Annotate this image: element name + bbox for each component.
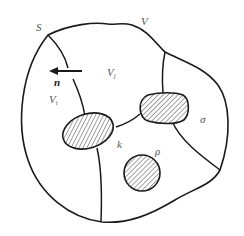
label-subvolume-Vi: Vi [49, 94, 58, 107]
label-Vi-main: V [49, 93, 56, 105]
arrow-left-icon [49, 67, 82, 75]
interface-right [172, 121, 220, 170]
label-sigma: σ [200, 114, 205, 125]
domain-diagram: S V n Vi Vj σ k ρ [0, 0, 244, 236]
label-normal-n: n [54, 77, 60, 88]
label-subvolume-Vj: Vj [107, 67, 116, 80]
inclusion-right [140, 93, 188, 124]
outer-boundary [22, 23, 228, 222]
diagram-canvas [0, 0, 244, 236]
label-surface-S: S [36, 22, 42, 33]
label-kappa: k [117, 139, 122, 150]
label-volume-V: V [141, 16, 148, 27]
interface-left-bottom [97, 148, 102, 222]
label-Vj-sub: j [114, 72, 116, 80]
label-Vj-main: V [107, 66, 114, 78]
inclusion-left [58, 107, 118, 155]
label-Vi-sub: i [56, 99, 58, 107]
interface-middle [116, 114, 140, 127]
label-rho: ρ [155, 146, 160, 157]
interface-left-upper [48, 35, 68, 68]
interface-left-lower [73, 79, 85, 116]
inclusion-rho [124, 155, 160, 191]
interface-top [162, 52, 165, 93]
